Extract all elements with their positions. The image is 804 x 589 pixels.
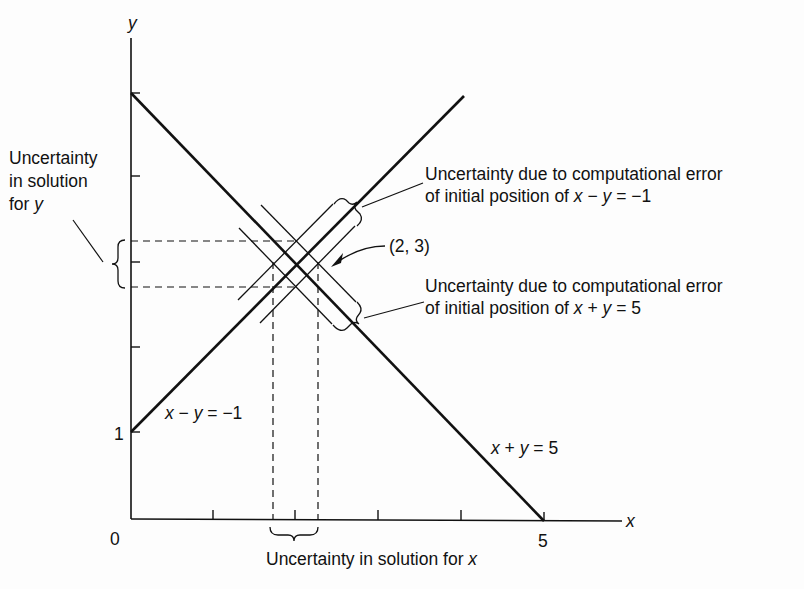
x-axis-label: x <box>626 510 635 532</box>
arrowhead-icon <box>331 253 343 267</box>
error-leader-2 <box>364 302 424 318</box>
error-annotation-x-minus-y: Uncertainty due to computational error o… <box>425 163 723 207</box>
x-axis <box>131 519 622 521</box>
y-tick-label-1: 1 <box>114 423 124 445</box>
x-uncertainty-brace <box>270 527 318 541</box>
uncertainty-y-annotation: Uncertainty in solution for y <box>9 147 98 216</box>
error-leader-1 <box>362 183 423 207</box>
label-x-minus-y: x − y = −1 <box>165 402 242 424</box>
uncertainty-diagram: y x 0 1 5 x − y = −1 x + y = 5 (2, 3) Un… <box>0 0 804 589</box>
y-axis-label: y <box>128 12 137 34</box>
uncertainty-x-annotation: Uncertainty in solution for x <box>266 548 477 570</box>
intersection-label: (2, 3) <box>389 235 430 257</box>
intersection-arrow <box>336 246 385 263</box>
x-tick-label-5: 5 <box>538 530 548 552</box>
origin-label: 0 <box>110 528 120 550</box>
y-uncertainty-brace <box>112 240 125 288</box>
error-annotation-x-plus-y: Uncertainty due to computational error o… <box>425 275 723 319</box>
y-uncertainty-leader <box>73 220 103 262</box>
y-ticks <box>131 93 140 432</box>
dashed-projections <box>131 241 318 520</box>
label-x-plus-y: x + y = 5 <box>491 437 558 459</box>
